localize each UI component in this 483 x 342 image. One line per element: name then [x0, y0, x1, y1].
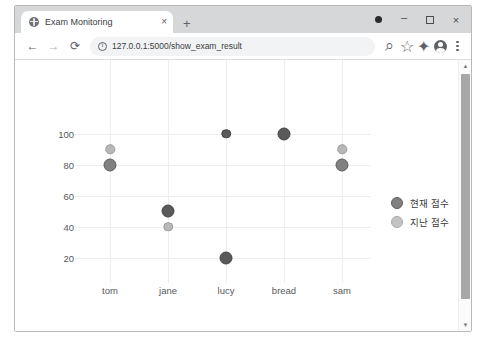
plot-area: 20406080100tomjanelucybreadsam: [81, 118, 371, 273]
gridline-horizontal: [75, 165, 371, 166]
scrollbar-up-arrow-icon[interactable]: ▲: [459, 60, 471, 72]
new-tab-button[interactable]: +: [183, 17, 191, 30]
gridline-horizontal: [75, 196, 371, 197]
tab-title: Exam Monitoring: [45, 17, 155, 27]
gridline-vertical: [226, 60, 227, 283]
legend-item: 지난 점수: [391, 215, 449, 229]
gridline-vertical: [342, 60, 343, 283]
y-axis-tick-label: 100: [58, 128, 74, 139]
x-axis-tick-label: lucy: [218, 285, 235, 296]
forward-icon[interactable]: →: [43, 36, 64, 57]
exam-result-chart: 20406080100tomjanelucybreadsam 현재 점수지난 점…: [15, 60, 459, 331]
y-axis-tick-label: 80: [63, 159, 74, 170]
data-point-marker: [162, 205, 175, 218]
browser-tab[interactable]: Exam Monitoring ×: [21, 11, 173, 33]
address-bar[interactable]: 127.0.0.1:5000/show_exam_result: [90, 37, 375, 56]
data-point-marker: [104, 158, 117, 171]
maximize-icon: [426, 16, 434, 24]
tab-strip: Exam Monitoring × + – ×: [15, 6, 471, 33]
page-viewport: ⌕ ✚ ⌂ ☰ ⬚ 20406080100tomjanelucybreadsam…: [15, 60, 471, 331]
gridline-vertical: [110, 60, 111, 283]
profile-avatar[interactable]: [432, 36, 449, 56]
legend-label: 현재 점수: [410, 196, 449, 210]
data-point-marker: [337, 144, 347, 154]
y-axis-tick-label: 40: [63, 221, 74, 232]
chart-legend: 현재 점수지난 점수: [391, 196, 449, 229]
legend-label: 지난 점수: [410, 215, 449, 229]
data-point-marker: [336, 158, 349, 171]
close-button[interactable]: ×: [443, 8, 469, 32]
url-text: 127.0.0.1:5000/show_exam_result: [112, 41, 367, 51]
x-axis-tick-label: tom: [102, 285, 118, 296]
x-axis-tick-label: bread: [272, 285, 296, 296]
zoom-icon[interactable]: ⌕: [381, 36, 398, 56]
bookmark-star-icon[interactable]: ☆: [398, 36, 415, 56]
navigation-toolbar: ← → ⟳ 127.0.0.1:5000/show_exam_result ⌕ …: [15, 33, 471, 60]
y-axis-tick-label: 20: [63, 252, 74, 263]
maximize-button[interactable]: [417, 8, 443, 32]
data-point-marker: [163, 222, 173, 232]
avatar-icon: [434, 40, 447, 53]
window-controls: – ×: [365, 6, 469, 33]
close-icon[interactable]: ×: [161, 17, 167, 27]
minimize-button[interactable]: –: [391, 8, 417, 32]
legend-swatch-icon: [391, 216, 403, 228]
gridline-vertical: [284, 60, 285, 283]
browser-menu-icon[interactable]: [449, 36, 466, 56]
tab-search-button[interactable]: [365, 8, 391, 32]
gridline-vertical: [168, 60, 169, 283]
x-axis-tick-label: jane: [159, 285, 177, 296]
scrollbar-thumb[interactable]: [461, 74, 470, 299]
data-point-marker: [105, 144, 115, 154]
data-point-marker: [221, 129, 231, 139]
vertical-scrollbar[interactable]: ▲ ▼: [458, 60, 471, 331]
tab-search-icon: [375, 16, 382, 23]
browser-window: Exam Monitoring × + – × ← → ⟳ 127.0.0.1:…: [14, 5, 472, 332]
back-icon[interactable]: ←: [22, 36, 43, 57]
globe-icon: [29, 17, 39, 27]
reload-icon[interactable]: ⟳: [64, 36, 85, 57]
data-point-marker: [278, 127, 291, 140]
legend-swatch-icon: [391, 197, 403, 209]
legend-item: 현재 점수: [391, 196, 449, 210]
info-circle-icon[interactable]: [98, 42, 107, 51]
scrollbar-down-arrow-icon[interactable]: ▼: [459, 319, 471, 331]
y-axis-tick-label: 60: [63, 190, 74, 201]
x-axis-tick-label: sam: [333, 285, 351, 296]
kebab-menu-icon: [456, 41, 458, 51]
data-point-marker: [220, 251, 233, 264]
extensions-puzzle-icon[interactable]: ✦: [415, 36, 432, 56]
gridline-horizontal: [75, 227, 371, 228]
